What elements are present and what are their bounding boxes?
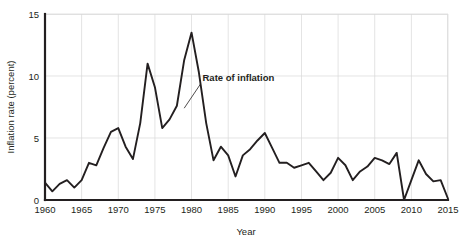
x-tick-label-1995: 1995 xyxy=(291,204,312,215)
x-tick-label-2015: 2015 xyxy=(437,204,458,215)
annotation-rate-of-inflation: Rate of inflation xyxy=(203,72,275,83)
y-tick-label-5: 5 xyxy=(34,133,39,144)
x-tick-label-1980: 1980 xyxy=(181,204,202,215)
vertical-gridlines xyxy=(82,14,448,200)
chart-canvas: 051015 196019651970197519801985199019952… xyxy=(0,0,470,243)
y-axis-title: Inflation rate (percent) xyxy=(5,61,16,154)
x-axis-tick-labels: 1960196519701975198019851990199520002005… xyxy=(34,204,458,215)
x-axis-title: Year xyxy=(236,226,255,237)
annotation-leader-line xyxy=(184,84,200,108)
x-tick-label-1975: 1975 xyxy=(144,204,165,215)
y-tick-label-10: 10 xyxy=(28,71,39,82)
x-tick-label-2000: 2000 xyxy=(328,204,349,215)
x-tick-label-1965: 1965 xyxy=(71,204,92,215)
x-tick-label-1985: 1985 xyxy=(218,204,239,215)
x-tick-label-1960: 1960 xyxy=(34,204,55,215)
x-tick-label-1990: 1990 xyxy=(254,204,275,215)
y-tick-label-15: 15 xyxy=(28,9,39,20)
inflation-rate-line-chart: 051015 196019651970197519801985199019952… xyxy=(0,0,470,243)
x-tick-label-1970: 1970 xyxy=(108,204,129,215)
inflation-rate-series-line xyxy=(45,33,448,200)
y-axis-tick-labels: 051015 xyxy=(28,9,39,206)
x-tick-label-2010: 2010 xyxy=(401,204,422,215)
plot-area-border xyxy=(45,15,448,201)
x-tick-label-2005: 2005 xyxy=(364,204,385,215)
